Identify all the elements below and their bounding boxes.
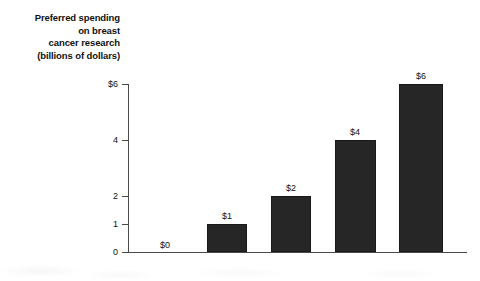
y-tick-mark-4 (122, 140, 128, 141)
y-tick-mark-0 (122, 252, 128, 253)
bar-value-lena: $6 (399, 71, 443, 81)
bar-jerome[interactable] (207, 224, 247, 252)
bar-value-jerome: $1 (205, 211, 249, 221)
category-label-kathleen: Kathleen (133, 257, 197, 268)
y-tick-label-6: $6 (86, 79, 118, 89)
category-label-steve: Steve (323, 257, 387, 268)
category-label-jerome: Jerome (195, 257, 259, 268)
y-tick-mark-6 (122, 84, 128, 85)
y-tick-label-2: 2 (86, 191, 118, 201)
bar-value-steve: $4 (333, 127, 377, 137)
bar-value-david: $2 (269, 183, 313, 193)
y-tick-label-1: 1 (86, 219, 118, 229)
y-tick-mark-2 (122, 196, 128, 197)
chart-screenshot: Preferred spending on breast cancer rese… (0, 0, 480, 281)
category-label-david: David (259, 257, 323, 268)
x-axis-line (128, 252, 467, 253)
category-label-lena: Lena (389, 257, 453, 268)
y-tick-label-4: 4 (86, 135, 118, 145)
bar-lena[interactable] (399, 84, 443, 252)
bar-value-kathleen: $0 (143, 240, 187, 250)
bar-steve[interactable] (335, 140, 376, 252)
y-tick-mark-1 (122, 224, 128, 225)
chart-title: Preferred spending on breast cancer rese… (8, 12, 120, 62)
y-axis-line (128, 84, 129, 253)
bar-david[interactable] (271, 196, 311, 252)
y-tick-label-0: 0 (86, 247, 118, 257)
